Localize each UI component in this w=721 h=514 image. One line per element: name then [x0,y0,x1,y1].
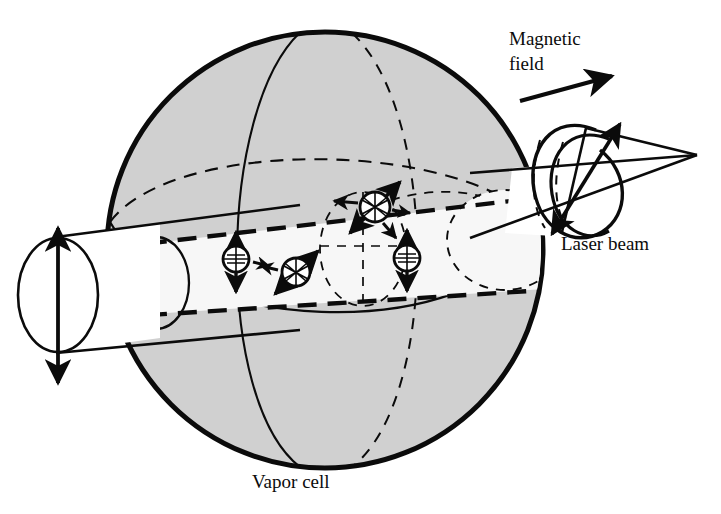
laser-beam-label: Laser beam [561,233,649,254]
atom-3-emission-left [334,201,358,203]
figure-root: Magnetic field Laser beam Vapor cell [0,0,721,514]
vapor-cell-label: Vapor cell [252,471,330,492]
magnetic-field-arrow [520,76,612,101]
diagram-canvas: Magnetic field Laser beam Vapor cell [0,0,721,514]
magnetic-field-label-line1: Magnetic [509,28,581,49]
magnetic-field-label-line2: field [509,53,544,74]
